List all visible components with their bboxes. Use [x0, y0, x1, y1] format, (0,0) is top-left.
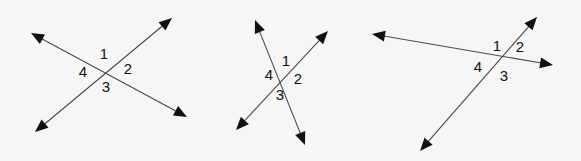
figure-1-angle-label-2: 2 [124, 60, 132, 77]
figure-2-angle-label-2: 2 [294, 70, 302, 87]
figure-1-line-b-arrowhead-end [173, 106, 187, 117]
figure-1-line-b [39, 37, 179, 112]
figure-2-line-b [242, 38, 322, 124]
intersecting-lines-diagram: 123412341234 [0, 0, 581, 161]
figure-2-angle-label-3: 3 [276, 86, 284, 103]
figure-3: 1234 [372, 17, 553, 151]
figure-1-line-a-arrowhead-start [35, 120, 48, 132]
figure-1-angle-label-1: 1 [100, 45, 108, 62]
figure-3-angle-label-1: 1 [493, 37, 501, 54]
figure-1-angle-label-3: 3 [102, 78, 110, 95]
figure-1-line-b-arrowhead-start [31, 33, 45, 44]
figure-2-angle-label-1: 1 [282, 52, 290, 69]
figure-1-line-a-arrowhead-end [159, 18, 172, 30]
figure-2-angle-label-4: 4 [265, 66, 273, 83]
diagram-canvas: 123412341234 [0, 0, 581, 161]
figure-1: 1234 [31, 18, 187, 132]
figure-1-line-a [42, 24, 165, 126]
figure-3-line-a-arrowhead-end [539, 57, 553, 68]
figure-3-angle-label-4: 4 [474, 58, 482, 75]
figure-2: 1234 [236, 20, 328, 145]
figure-3-angle-label-2: 2 [516, 38, 524, 55]
figure-3-line-b-arrowhead-start [420, 138, 433, 151]
figure-3-angle-label-3: 3 [500, 67, 508, 84]
figure-3-line-b-arrowhead-end [524, 17, 537, 30]
figure-2-line-a-arrowhead-end [295, 131, 305, 145]
figure-1-angle-label-4: 4 [79, 63, 87, 80]
figure-2-line-a-arrowhead-start [255, 20, 265, 34]
figure-3-line-a-arrowhead-start [372, 31, 386, 42]
